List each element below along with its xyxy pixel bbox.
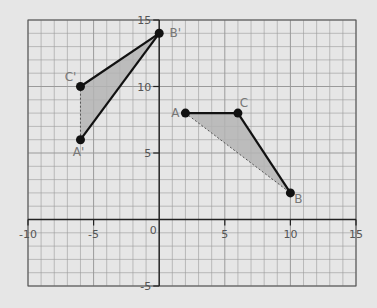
vertex-label: A bbox=[171, 106, 180, 120]
coordinate-plane: -10-5051015-551015 ABCA'B'C' bbox=[0, 0, 377, 308]
x-tick-label: 5 bbox=[221, 228, 228, 241]
y-tick-label: 10 bbox=[137, 81, 151, 94]
x-tick-label: -10 bbox=[19, 228, 37, 241]
vertex-point bbox=[76, 82, 85, 91]
x-tick-label: 10 bbox=[283, 228, 297, 241]
vertices: ABCA'B'C' bbox=[65, 26, 303, 206]
vertex-label: A' bbox=[73, 145, 85, 159]
y-tick-label: -5 bbox=[140, 280, 151, 293]
x-tick-label: 0 bbox=[150, 224, 157, 237]
vertex-point bbox=[181, 109, 190, 118]
y-tick-label: 15 bbox=[137, 14, 151, 27]
vertex-point bbox=[155, 29, 164, 38]
x-tick-label: 15 bbox=[349, 228, 363, 241]
vertex-label: C' bbox=[65, 70, 77, 84]
x-tick-label: -5 bbox=[88, 228, 99, 241]
vertex-label: B bbox=[294, 192, 302, 206]
vertex-point bbox=[76, 135, 85, 144]
vertex-label: C bbox=[240, 96, 248, 110]
y-tick-label: 5 bbox=[144, 147, 151, 160]
vertex-label: B' bbox=[169, 26, 181, 40]
